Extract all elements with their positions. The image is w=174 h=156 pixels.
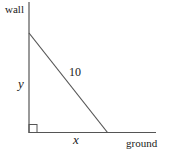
right-angle-marker — [29, 125, 37, 133]
x-label: x — [72, 132, 79, 147]
wall-label: wall — [5, 3, 24, 15]
y-label: y — [16, 76, 24, 91]
ground-label: ground — [126, 137, 158, 149]
ladder-diagram: wall ground 10 y x — [0, 0, 174, 156]
hypotenuse-label: 10 — [69, 65, 81, 79]
ladder-line — [29, 33, 108, 133]
